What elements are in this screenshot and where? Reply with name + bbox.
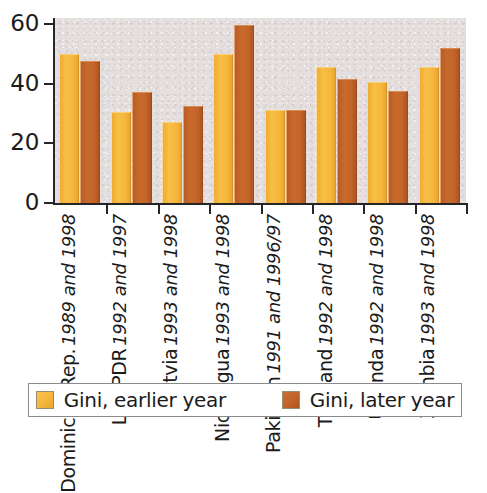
legend-item-later[interactable]: Gini, later year xyxy=(282,388,454,412)
y-tick-mark xyxy=(44,202,53,204)
bar[interactable] xyxy=(80,61,100,203)
legend-item-earlier[interactable]: Gini, earlier year xyxy=(36,388,226,412)
x-tick-mark xyxy=(415,205,417,214)
x-axis-label: Uganda1992 and 1998 xyxy=(366,214,412,364)
x-axis-label-years: 1993 and 1998 xyxy=(160,214,181,346)
y-tick-label: 0 xyxy=(25,191,39,214)
x-axis-label-years: 1993 and 1998 xyxy=(417,214,438,346)
bar-group xyxy=(312,18,363,203)
x-axis-label: Nicaragua1993 and 1998 xyxy=(212,214,258,364)
x-axis-label: Zambia1993 and 1998 xyxy=(417,214,463,364)
bar[interactable] xyxy=(234,25,254,203)
bar[interactable] xyxy=(286,110,306,203)
x-axis-label: Thailand1992 and 1998 xyxy=(315,214,361,364)
bar[interactable] xyxy=(265,110,285,203)
y-axis: 0204060 xyxy=(0,0,52,215)
plot-area xyxy=(55,18,466,203)
bar[interactable] xyxy=(367,82,387,203)
bar-group xyxy=(106,18,157,203)
x-axis-label: Dominican Rep.1989 and 1998 xyxy=(58,214,104,364)
y-tick-label: 20 xyxy=(10,131,39,154)
x-axis-label-years: 1992 and 1998 xyxy=(315,214,336,346)
bar[interactable] xyxy=(440,48,460,203)
bar[interactable] xyxy=(59,54,79,203)
legend-label-later: Gini, later year xyxy=(310,388,454,412)
y-tick-mark xyxy=(44,83,53,85)
x-tick-mark xyxy=(466,205,468,214)
x-axis-labels: Dominican Rep.1989 and 1998Lao PDR1992 a… xyxy=(55,214,466,364)
bar-group xyxy=(209,18,260,203)
x-tick-mark xyxy=(261,205,263,214)
x-axis-label: Pakistan1991 and 1996/97 xyxy=(263,214,309,364)
bar-group xyxy=(415,18,466,203)
chart-legend: Gini, earlier year Gini, later year xyxy=(28,383,462,417)
y-tick-mark xyxy=(44,23,53,25)
x-axis-label-years: 1992 and 1997 xyxy=(109,214,130,346)
x-tick-mark xyxy=(106,205,108,214)
x-axis-label-country: Dominican Rep. xyxy=(58,349,79,493)
x-axis-label-years: 1993 and 1998 xyxy=(212,214,233,346)
bar[interactable] xyxy=(132,92,152,203)
bar[interactable] xyxy=(388,91,408,203)
bar-group xyxy=(55,18,106,203)
legend-swatch-earlier-icon xyxy=(36,391,54,409)
x-tick-mark xyxy=(363,205,365,214)
bar[interactable] xyxy=(111,112,131,203)
x-tick-mark xyxy=(312,205,314,214)
y-tick-label: 60 xyxy=(10,12,39,35)
bar-group xyxy=(261,18,312,203)
bar-group xyxy=(363,18,414,203)
x-axis-label: Lao PDR1992 and 1997 xyxy=(109,214,155,364)
x-axis-label-years: 1991 and 1996/97 xyxy=(263,214,284,374)
bar[interactable] xyxy=(213,54,233,203)
x-axis-label: Latvia1993 and 1998 xyxy=(160,214,206,364)
bar[interactable] xyxy=(162,122,182,203)
legend-label-earlier: Gini, earlier year xyxy=(64,388,226,412)
bar-group xyxy=(158,18,209,203)
bar[interactable] xyxy=(337,79,357,203)
y-tick-mark xyxy=(44,142,53,144)
x-tick-mark xyxy=(158,205,160,214)
x-axis-label-years: 1989 and 1998 xyxy=(58,214,79,346)
bar[interactable] xyxy=(419,67,439,203)
x-tick-mark xyxy=(209,205,211,214)
bar[interactable] xyxy=(183,106,203,203)
bar[interactable] xyxy=(316,67,336,203)
x-axis-label-years: 1992 and 1998 xyxy=(366,214,387,346)
y-tick-label: 40 xyxy=(10,72,39,95)
legend-swatch-later-icon xyxy=(282,391,300,409)
